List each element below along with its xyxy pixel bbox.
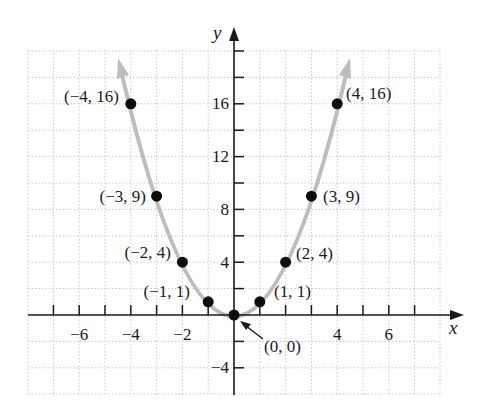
data-point <box>203 296 214 307</box>
point-label: (4, 16) <box>346 84 391 103</box>
x-tick-label: 4 <box>333 325 342 344</box>
parabola-chart: y x −6 −4 −2 4 6 16 12 8 4 −4 (−4, 16) (… <box>0 0 495 418</box>
point-label: (2, 4) <box>296 244 333 263</box>
x-tick-label: 6 <box>385 325 394 344</box>
data-point <box>125 98 136 109</box>
data-point <box>177 257 188 268</box>
data-point <box>332 98 343 109</box>
y-tick-label: −4 <box>211 358 230 377</box>
y-tick-label: 16 <box>212 94 229 113</box>
x-tick-label: −6 <box>70 325 88 344</box>
point-label: (1, 1) <box>274 282 311 301</box>
data-point <box>229 310 240 321</box>
point-label: (3, 9) <box>323 187 360 206</box>
point-label: (0, 0) <box>264 337 301 356</box>
data-point <box>280 257 291 268</box>
point-label: (−1, 1) <box>144 282 190 301</box>
curve-arrow-left-icon <box>117 58 129 79</box>
y-tick-label: 4 <box>221 253 230 272</box>
data-point <box>254 296 265 307</box>
point-label: (−4, 16) <box>64 87 119 106</box>
point-label: (−3, 9) <box>100 187 146 206</box>
y-tick-label: 12 <box>212 147 229 166</box>
data-point <box>306 191 317 202</box>
y-axis-arrow-icon <box>229 27 239 41</box>
x-axis-label: x <box>448 317 458 338</box>
y-axis-label: y <box>211 22 222 43</box>
y-axis <box>229 27 244 395</box>
point-label: (−2, 4) <box>125 243 171 262</box>
x-tick-label: −2 <box>173 325 191 344</box>
x-tick-label: −4 <box>122 325 141 344</box>
curve-arrow-right-icon <box>339 58 351 79</box>
data-point <box>151 191 162 202</box>
y-tick-label: 8 <box>221 200 230 219</box>
